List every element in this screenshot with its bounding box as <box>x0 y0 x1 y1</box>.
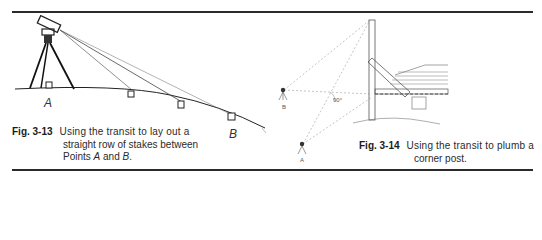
caption-line-2: straight row of stakes between <box>12 139 212 152</box>
caption-and: and <box>100 151 122 162</box>
figure-number: Fig. 3-14 <box>359 140 400 153</box>
caption-line-1: Using the transit to plumb a <box>400 140 539 153</box>
figure-number: Fig. 3-13 <box>12 126 53 139</box>
caption-line-3: Points A and B. <box>12 151 212 164</box>
station-a-label: A <box>300 157 304 163</box>
caption-points-text: Points <box>63 151 94 162</box>
transit-a-icon <box>298 142 306 154</box>
caption-line-2: corner post. <box>359 153 539 166</box>
transit-b-icon <box>279 88 287 100</box>
caption-end: . <box>129 151 132 162</box>
angle-label: 90° <box>333 97 342 103</box>
station-b-label: B <box>282 104 286 110</box>
figure-3-14-caption: Fig. 3-14 Using the transit to plumb a c… <box>359 140 539 165</box>
figure-3-13-caption: Fig. 3-13 Using the transit to lay out a… <box>12 126 212 164</box>
caption-line-1: Using the transit to lay out a <box>53 126 212 139</box>
